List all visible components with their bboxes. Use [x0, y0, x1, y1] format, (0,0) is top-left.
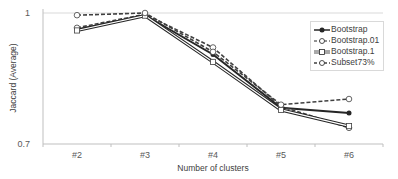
x-tick-labels: #2#3#4#5#6 [72, 150, 354, 160]
open-square-double-line-icon [314, 48, 330, 56]
legend-label: Bootstrap [331, 24, 367, 35]
legend-item-bootstrap-1: Bootstrap.1 [314, 46, 379, 57]
y-tick-bottom: 0.7 [17, 139, 30, 149]
legend-item-subset73: Subset73% [314, 57, 379, 68]
x-tick-label: #2 [72, 150, 82, 160]
legend-item-bootstrap-01: Bootstrap.01 [314, 35, 379, 46]
legend-label: Subset73% [331, 57, 374, 68]
x-tick-label: #6 [344, 150, 354, 160]
legend-label: Bootstrap.1 [331, 46, 374, 57]
legend-item-bootstrap: Bootstrap [314, 24, 379, 35]
x-tick-label: #4 [208, 150, 218, 160]
open-circle-dashed-line-icon [314, 37, 330, 45]
x-axis-title: Number of clusters [177, 163, 248, 173]
x-tick-label: #5 [276, 150, 286, 160]
y-tick-top: 1 [25, 8, 30, 18]
open-circle-dashed-line-icon [314, 59, 330, 67]
legend: Bootstrap Bootstrap.01 Bootstrap.1 Subse… [310, 21, 384, 71]
legend-label: Bootstrap.01 [331, 35, 379, 46]
filled-circle-solid-line-icon [314, 26, 330, 34]
x-tick-label: #3 [140, 150, 150, 160]
y-axis-title: Jaccard (Average) [8, 43, 18, 112]
